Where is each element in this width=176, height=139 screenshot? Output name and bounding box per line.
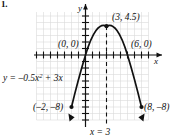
symmetry-label: x = 3 (89, 127, 110, 137)
y-axis-label: y (77, 3, 82, 13)
x-axis (34, 52, 162, 59)
x-axis-label: x (153, 56, 158, 66)
point-marker-right (139, 105, 143, 109)
label-y-intercept: (0, 0) (58, 39, 79, 50)
equation-lhs: y = –0.5x (2, 73, 40, 83)
parabola-figure: 1. (0, 0, 176, 139)
point-marker-left (69, 105, 73, 109)
label-left-point: (–2, –8) (33, 102, 63, 113)
label-vertex: (3, 4.5) (112, 12, 140, 23)
label-right-point: (8, –8) (144, 102, 169, 113)
equation-label: y = –0.5x2 + 3x (2, 72, 63, 84)
equation-rhs: + 3x (42, 73, 63, 83)
graph-canvas: y x (0, 0) (3, 4.5) (6, 0) (–2, –8) (8, … (0, 0, 176, 139)
point-marker-vertex (104, 24, 108, 28)
label-x-intercept: (6, 0) (131, 39, 152, 50)
